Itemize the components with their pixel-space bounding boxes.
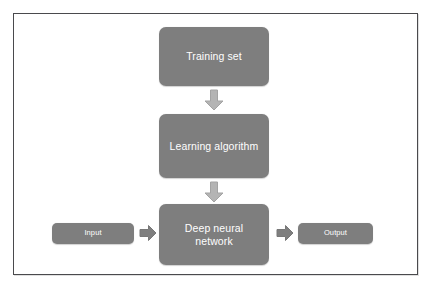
node-input-label: Input xyxy=(84,229,101,238)
node-learning-algorithm[interactable]: Learning algorithm xyxy=(159,114,269,178)
node-learning-algorithm-label: Learning algorithm xyxy=(170,140,259,152)
node-deep-neural-network[interactable]: Deep neural network xyxy=(159,204,269,265)
arrow-right-icon-network-to-output xyxy=(276,224,294,242)
diagram-canvas: Training set Learning algorithm Deep neu… xyxy=(14,14,417,274)
arrow-down-icon-learning-to-network xyxy=(203,181,225,203)
node-training-set-label: Training set xyxy=(186,50,242,62)
arrow-down-icon-training-to-learning xyxy=(203,89,225,111)
node-output-label: Output xyxy=(324,229,347,238)
diagram-frame: Training set Learning algorithm Deep neu… xyxy=(13,13,418,275)
node-input[interactable]: Input xyxy=(52,223,134,244)
node-output[interactable]: Output xyxy=(298,223,373,244)
node-deep-neural-network-label: Deep neural network xyxy=(185,222,243,246)
arrow-right-icon-input-to-network xyxy=(139,224,157,242)
node-training-set[interactable]: Training set xyxy=(159,27,269,86)
